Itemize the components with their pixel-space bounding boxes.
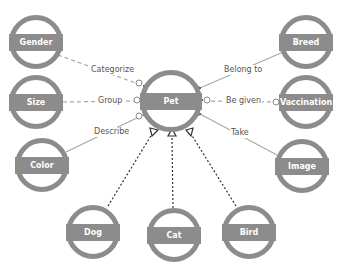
edge-bird-pet[interactable] <box>191 134 236 206</box>
entity-dog[interactable]: Dog <box>66 205 120 259</box>
optional-marker-icon <box>136 80 142 86</box>
relationship-label-categorize: Categorize <box>90 65 135 75</box>
entity-gender[interactable]: Gender <box>9 15 63 69</box>
optional-marker-icon <box>136 113 142 119</box>
entity-image[interactable]: Image <box>275 139 329 193</box>
entity-label: Size <box>9 94 63 111</box>
relationship-label-take: Take <box>230 128 250 138</box>
entity-label: Cat <box>147 227 201 244</box>
entity-label: Gender <box>9 34 63 51</box>
relationship-label-be-given: Be given <box>225 96 262 106</box>
entity-size[interactable]: Size <box>9 75 63 129</box>
entity-vaccination[interactable]: Vaccination <box>279 75 333 129</box>
entity-breed[interactable]: Breed <box>279 15 333 69</box>
entity-label: Pet <box>140 93 202 110</box>
entity-pet[interactable]: Pet <box>140 70 202 132</box>
entity-label: Bird <box>222 224 276 241</box>
entity-label: Dog <box>66 224 120 241</box>
entity-label: Color <box>15 157 69 174</box>
relationship-label-belong-to: Belong to <box>223 65 263 75</box>
entity-bird[interactable]: Bird <box>222 205 276 259</box>
inheritance-arrow-icon <box>186 128 193 136</box>
edge-cat-pet[interactable] <box>172 137 173 208</box>
entity-label: Breed <box>279 34 333 51</box>
relationship-label-group: Group <box>97 96 123 106</box>
entity-color[interactable]: Color <box>15 138 69 192</box>
entity-label: Vaccination <box>279 94 333 111</box>
inheritance-arrow-icon <box>150 128 158 136</box>
optional-marker-icon <box>204 97 210 103</box>
relationship-label-describe: Describe <box>93 127 130 137</box>
edge-dog-pet[interactable] <box>108 134 152 206</box>
entity-label: Image <box>275 158 329 175</box>
er-diagram-canvas: Gender Size Color Pet Breed Vaccination … <box>0 0 341 269</box>
entity-cat[interactable]: Cat <box>147 208 201 262</box>
